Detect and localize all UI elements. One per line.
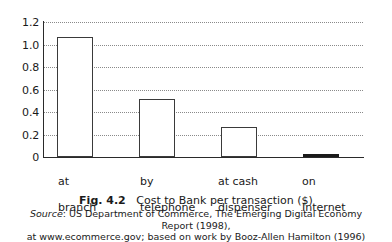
- ytick-label-0.6: 0.6: [22, 85, 39, 96]
- ytick-label-1.0: 1.0: [22, 40, 39, 51]
- xtick-label-by-telephone-line1: by: [140, 175, 195, 188]
- bar-at-cash-dispenser: [221, 127, 257, 157]
- figure-caption: Fig. 4.2 Cost to Bank per transaction ($…: [0, 194, 392, 207]
- source-line-1: Source: US Department of Commerce, The E…: [14, 208, 378, 231]
- x-axis-line: [43, 157, 364, 158]
- ytick-label-1.2: 1.2: [22, 17, 39, 28]
- y-axis-line: [43, 21, 44, 158]
- bar-by-telephone: [139, 99, 175, 158]
- source-text-line1: : US Department of Commerce, The Emergin…: [63, 208, 362, 231]
- bar-at-branch: [57, 37, 93, 157]
- ytick-label-0.2: 0.2: [22, 130, 39, 141]
- gridline-1.2: [43, 22, 363, 23]
- xtick-label-at-cash-dispenser-line1: at cash: [218, 175, 272, 188]
- figure-title: Cost to Bank per transaction ($): [136, 194, 313, 207]
- xtick-label-at-branch-line1: at: [58, 175, 96, 188]
- ytick-label-0.4: 0.4: [22, 107, 39, 118]
- figure-container: 1.2 1.0 0.8 0.6 0.4 0.2 0 at branch by t…: [0, 0, 392, 242]
- source-text-line2: at www.ecommerce.gov; based on work by B…: [14, 231, 378, 242]
- figure-number: Fig. 4.2: [79, 194, 126, 207]
- source-note: Source: US Department of Commerce, The E…: [14, 208, 378, 242]
- ytick-label-0.8: 0.8: [22, 62, 39, 73]
- plot-area: [43, 22, 363, 157]
- source-label: Source: [30, 208, 63, 219]
- ytick-label-0: 0: [32, 152, 39, 163]
- xtick-label-on-internet-line1: on: [302, 175, 346, 188]
